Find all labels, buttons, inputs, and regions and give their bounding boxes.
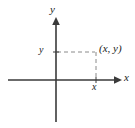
x-tick-label: x (92, 82, 96, 92)
axes-diagram (0, 0, 135, 128)
y-axis-label: y (50, 4, 55, 15)
y-axis-arrowhead (52, 17, 60, 25)
x-axis-arrowhead (114, 76, 122, 84)
point-coordinate-label: (x, y) (99, 43, 122, 54)
y-tick-label: y (39, 45, 43, 55)
coordinate-plane-figure: y x y x (x, y) (0, 0, 135, 128)
x-axis-label: x (124, 72, 129, 83)
